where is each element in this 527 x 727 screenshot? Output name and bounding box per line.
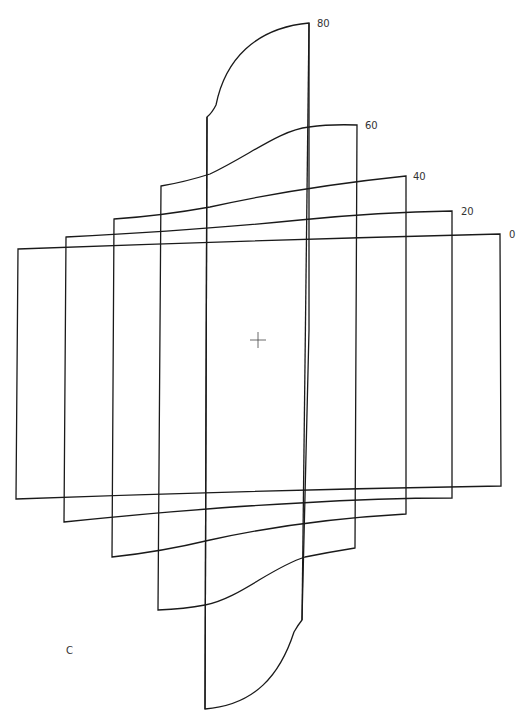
corner-label: C: [66, 645, 73, 656]
frame-outline-0: [16, 234, 501, 499]
frame-label-60: 60: [365, 120, 378, 131]
frame-80-right-edge: [302, 23, 309, 620]
frame-outline-20: [64, 211, 452, 522]
center-crosshair-icon: [250, 332, 266, 348]
frame-outline-80: [205, 23, 309, 709]
diagram-canvas: 020406080 C: [0, 0, 527, 727]
frame-80-left-edge: [205, 117, 207, 709]
frame-label-0: 0: [509, 229, 515, 240]
frame-label-40: 40: [413, 171, 426, 182]
frame-labels: 020406080: [317, 18, 515, 240]
frame-label-20: 20: [461, 206, 474, 217]
frame-label-80: 80: [317, 18, 330, 29]
frame-outlines: [16, 23, 501, 709]
